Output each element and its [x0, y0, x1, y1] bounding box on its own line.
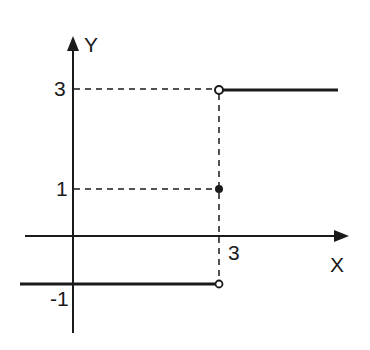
x-axis-arrow-icon [334, 230, 349, 242]
y-axis-label: Y [84, 33, 98, 56]
y-axis-arrow-icon [67, 36, 79, 51]
filled-point [215, 185, 223, 193]
tick-label-yneg1: -1 [50, 287, 69, 310]
step-function-graph: Y X 3 1 -1 3 [0, 0, 370, 350]
tick-label-x3: 3 [228, 241, 240, 264]
x-axis-label: X [330, 253, 344, 276]
open-point-bottom [216, 281, 223, 288]
tick-label-y3: 3 [54, 77, 66, 100]
plot-svg: Y X 3 1 -1 3 [0, 0, 370, 350]
open-point-top [215, 86, 223, 94]
tick-label-y1: 1 [56, 177, 68, 200]
